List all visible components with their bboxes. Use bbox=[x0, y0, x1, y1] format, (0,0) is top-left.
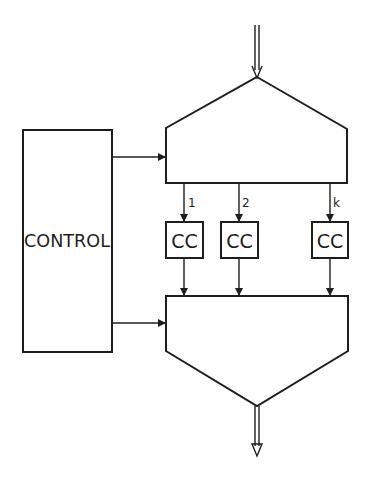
channel-1-index: 1 bbox=[188, 196, 196, 210]
output-arrow bbox=[252, 406, 262, 456]
cc-unit-k-label: CC bbox=[317, 230, 344, 252]
channel-2-index: 2 bbox=[242, 196, 250, 210]
top-distributor-block bbox=[166, 77, 347, 183]
channel-k-index: k bbox=[333, 196, 340, 210]
diagram-canvas: CONTROL 1 CC 2 CC k CC bbox=[0, 0, 371, 480]
channel-2: 2 CC bbox=[221, 183, 258, 295]
input-arrow bbox=[252, 25, 262, 78]
channel-k: k CC bbox=[312, 183, 348, 295]
cc-unit-2-label: CC bbox=[226, 230, 253, 252]
cc-unit-1-label: CC bbox=[171, 230, 198, 252]
control-label: CONTROL bbox=[24, 231, 111, 251]
bottom-collector-block bbox=[166, 296, 348, 406]
channel-1: 1 CC bbox=[166, 183, 203, 295]
